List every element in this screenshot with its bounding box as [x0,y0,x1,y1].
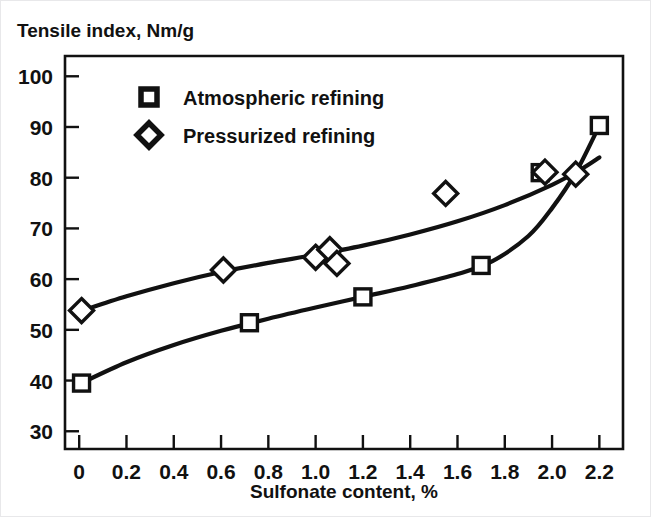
x-tick-label: 0.8 [254,460,284,483]
data-point-square [473,257,489,273]
legend-label: Pressurized refining [183,125,375,147]
y-axis-title: Tensile index, Nm/g [17,20,194,41]
x-tick-label: 1.2 [348,460,377,483]
x-tick-label: 1.6 [443,460,472,483]
x-axis-ticks: 00.20.40.60.81.01.21.41.61.82.02.2 [73,435,614,483]
y-tick-label: 40 [30,370,53,393]
y-tick-label: 70 [30,217,53,240]
data-point-diamond [211,258,235,282]
series-markers [70,117,608,391]
x-tick-label: 0 [73,460,85,483]
y-tick-label: 50 [30,319,53,342]
x-axis-title: Sulfonate content, % [250,481,438,502]
data-point-diamond [70,299,94,323]
tensile-index-vs-sulfonate-chart: Tensile index, Nm/g 30405060708090100 00… [1,1,651,517]
data-point-square [355,289,371,305]
chart-legend: Atmospheric refiningPressurized refining [137,87,384,147]
y-tick-label: 100 [18,65,53,88]
data-point-square [241,315,257,331]
y-tick-label: 90 [30,116,53,139]
x-tick-label: 1.4 [396,460,426,483]
series-line-2 [79,157,599,311]
x-tick-label: 0.6 [206,460,235,483]
legend-entry-2: Pressurized refining [137,123,375,147]
chart-figure: Tensile index, Nm/g 30405060708090100 00… [0,0,651,517]
y-axis-ticks: 30405060708090100 [18,65,79,443]
x-tick-label: 1.8 [490,460,520,483]
data-point-square [591,117,607,133]
legend-label: Atmospheric refining [183,87,384,109]
x-tick-label: 2.0 [537,460,566,483]
y-tick-label: 30 [30,420,53,443]
y-tick-label: 80 [30,167,53,190]
x-tick-label: 0.2 [112,460,141,483]
legend-marker-square-icon [141,89,157,105]
x-tick-label: 1.0 [301,460,330,483]
y-tick-label: 60 [30,268,53,291]
data-point-diamond [434,181,458,205]
legend-marker-diamond-icon [137,123,161,147]
legend-entry-1: Atmospheric refining [141,87,384,109]
x-tick-label: 2.2 [585,460,614,483]
plot-frame [65,56,623,449]
data-point-square [74,375,90,391]
x-tick-label: 0.4 [159,460,189,483]
